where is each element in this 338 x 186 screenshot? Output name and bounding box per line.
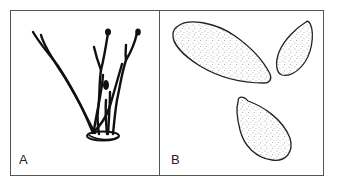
panel-a-hyphae	[33, 32, 137, 134]
panel-a-base	[87, 132, 119, 141]
figure-drawing	[0, 0, 338, 186]
panel-label-a: A	[19, 153, 28, 166]
spore-right	[277, 21, 313, 75]
panel-b-spores	[173, 21, 312, 160]
spore-large	[173, 22, 271, 83]
spore-bottom	[237, 97, 291, 160]
two-panel-figure: A B	[0, 0, 338, 186]
panel-label-b: B	[171, 153, 180, 166]
